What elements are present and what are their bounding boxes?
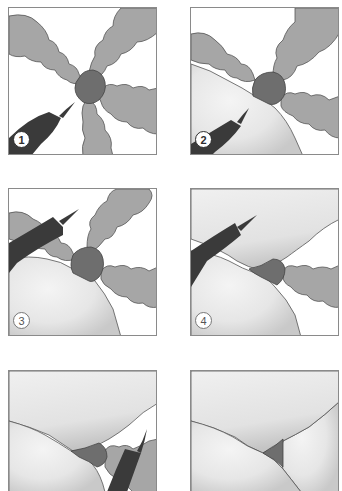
step-1-illustration <box>9 8 157 155</box>
step-6-illustration <box>191 371 339 491</box>
step-number-badge: 4 <box>195 312 212 329</box>
step-4-illustration <box>191 189 339 336</box>
lobe-upper-right <box>273 8 339 80</box>
lobe-right <box>283 265 339 307</box>
step-number-badge: 3 <box>13 312 30 329</box>
step-number-badge: 2 <box>195 131 212 148</box>
step-panel-1: 1 <box>8 7 157 155</box>
step-5-illustration <box>9 371 157 491</box>
lobe-upper-right <box>87 189 152 251</box>
step-panel-6 <box>190 370 339 491</box>
step-2-illustration <box>191 8 339 155</box>
probe-tip <box>59 209 79 225</box>
probe-tip <box>59 102 75 118</box>
lobe-right <box>101 265 157 307</box>
step-3-illustration <box>9 189 157 336</box>
step-number-badge: 1 <box>13 131 30 148</box>
step-panel-4: 4 <box>190 188 339 336</box>
lobe-upper-right <box>89 8 157 78</box>
step-panel-2: 2 <box>190 7 339 155</box>
lobe-upper-left <box>9 15 83 84</box>
step-panel-5 <box>8 370 157 491</box>
step-panel-3: 3 <box>8 188 157 336</box>
lobe-right <box>99 84 157 134</box>
